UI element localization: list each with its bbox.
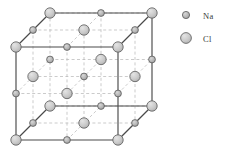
cl-atom — [130, 71, 140, 81]
cl-atom — [28, 71, 38, 81]
na-atom — [149, 56, 156, 63]
na-atom — [115, 90, 122, 97]
na-atom — [98, 10, 105, 17]
na-atom — [30, 27, 37, 34]
legend: Na Cl — [181, 11, 214, 44]
legend-na-marker-icon — [182, 11, 189, 18]
cl-atom — [79, 25, 89, 35]
cl-atom — [113, 42, 123, 52]
cl-atom — [62, 88, 72, 98]
cl-atom — [45, 8, 55, 18]
na-atom — [47, 56, 54, 63]
na-atom — [64, 137, 71, 144]
na-atom — [132, 27, 139, 34]
na-atom — [81, 73, 88, 80]
legend-na-label: Na — [203, 11, 214, 21]
cl-atom — [11, 135, 21, 145]
na-atom — [64, 44, 71, 51]
cl-atom — [113, 135, 123, 145]
nacl-unit-cell-figure: Na Cl — [0, 0, 227, 156]
legend-cl-marker-icon — [181, 33, 192, 44]
lattice-diagram: Na Cl — [0, 0, 227, 156]
cl-atom — [45, 101, 55, 111]
na-atom — [13, 90, 20, 97]
cl-atom — [11, 42, 21, 52]
na-atom — [30, 120, 37, 127]
legend-cl-label: Cl — [203, 34, 212, 44]
cl-atom — [147, 8, 157, 18]
cl-atom — [96, 54, 106, 64]
cl-atom — [147, 101, 157, 111]
na-atom — [132, 120, 139, 127]
na-atom — [98, 103, 105, 110]
cl-atom — [79, 118, 89, 128]
